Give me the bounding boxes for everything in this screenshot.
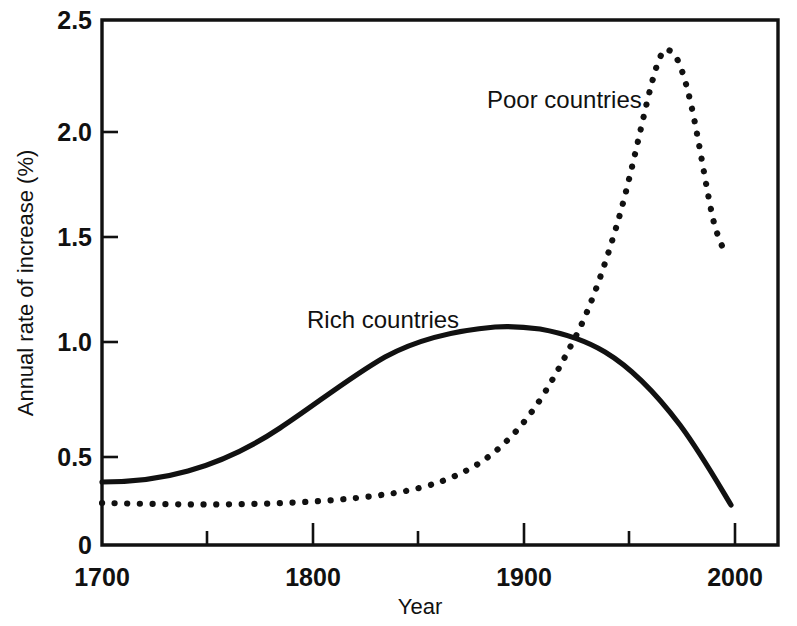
series-label-poor-countries: Poor countries [487, 86, 642, 113]
y-tick-label-2-0: 2.0 [57, 118, 92, 146]
chart-figure: 2.5 2.0 1.5 1.0 0.5 0 1700 1800 1900 200… [0, 0, 797, 626]
population-growth-line-chart: 2.5 2.0 1.5 1.0 0.5 0 1700 1800 1900 200… [0, 0, 797, 626]
series-label-rich-countries: Rich countries [307, 306, 459, 333]
y-tick-label-2-5: 2.5 [57, 6, 92, 34]
y-tick-label-0: 0 [78, 531, 92, 559]
x-axis-title: Year [398, 594, 442, 619]
x-tick-label-2000: 2000 [707, 563, 763, 591]
y-axis-title: Annual rate of increase (%) [13, 150, 38, 417]
x-tick-label-1700: 1700 [74, 563, 130, 591]
y-tick-label-1-5: 1.5 [57, 223, 92, 251]
x-tick-label-1800: 1800 [285, 563, 341, 591]
x-tick-label-1900: 1900 [496, 563, 552, 591]
y-tick-label-0-5: 0.5 [57, 443, 92, 471]
y-tick-label-1-0: 1.0 [57, 328, 92, 356]
